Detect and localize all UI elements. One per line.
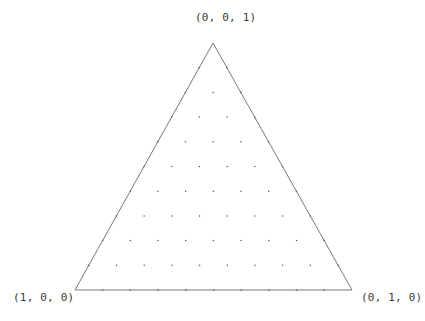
simplex-triangle (75, 43, 352, 290)
vertex-label-left: (1, 0, 0) (13, 291, 74, 304)
lattice-point (212, 92, 214, 94)
lattice-point (240, 289, 242, 291)
lattice-point (227, 265, 229, 267)
lattice-point (129, 190, 131, 192)
lattice-point (310, 265, 312, 267)
vertex-label-right: (0, 1, 0) (361, 291, 422, 304)
lattice-point (116, 215, 118, 217)
lattice-point (185, 190, 187, 192)
lattice-point (240, 141, 242, 143)
lattice-point (157, 289, 159, 291)
lattice-point (199, 166, 201, 168)
lattice-point (213, 289, 215, 291)
lattice-point (226, 67, 228, 69)
lattice-points (88, 67, 339, 291)
lattice-point (268, 240, 270, 242)
lattice-point (157, 141, 159, 143)
lattice-point (199, 215, 201, 217)
lattice-point (324, 289, 326, 291)
lattice-point (296, 289, 298, 291)
lattice-point (171, 116, 173, 118)
lattice-point (102, 289, 104, 291)
lattice-point (88, 265, 90, 267)
lattice-point (226, 215, 228, 217)
lattice-point (240, 92, 242, 94)
lattice-point (213, 190, 215, 192)
lattice-point (240, 240, 242, 242)
lattice-point (282, 166, 284, 168)
lattice-point (185, 92, 187, 94)
lattice-point (254, 265, 256, 267)
lattice-point (268, 141, 270, 143)
lattice-point (268, 190, 270, 192)
lattice-point (198, 67, 200, 69)
vertex-label-top: (0, 0, 1) (195, 11, 256, 24)
lattice-point (226, 166, 228, 168)
lattice-point (199, 265, 201, 267)
lattice-point (226, 116, 228, 118)
lattice-point (254, 116, 256, 118)
lattice-point (254, 166, 256, 168)
lattice-point (171, 265, 173, 267)
lattice-point (157, 190, 159, 192)
lattice-point (296, 190, 298, 192)
lattice-point (282, 215, 284, 217)
lattice-point (130, 289, 132, 291)
lattice-point (185, 141, 187, 143)
lattice-point (157, 240, 159, 242)
lattice-point (185, 289, 187, 291)
lattice-point (323, 240, 325, 242)
lattice-point (185, 240, 187, 242)
lattice-point (296, 240, 298, 242)
lattice-point (116, 265, 118, 267)
lattice-point (212, 141, 214, 143)
lattice-point (199, 116, 201, 118)
lattice-point (143, 215, 145, 217)
lattice-point (171, 215, 173, 217)
lattice-point (213, 240, 215, 242)
ternary-diagram (0, 0, 425, 321)
lattice-point (143, 166, 145, 168)
lattice-point (171, 166, 173, 168)
lattice-point (143, 265, 145, 267)
lattice-point (130, 240, 132, 242)
lattice-point (268, 289, 270, 291)
lattice-point (310, 215, 312, 217)
lattice-point (102, 240, 104, 242)
lattice-point (240, 190, 242, 192)
lattice-point (282, 265, 284, 267)
lattice-point (337, 265, 339, 267)
lattice-point (254, 215, 256, 217)
